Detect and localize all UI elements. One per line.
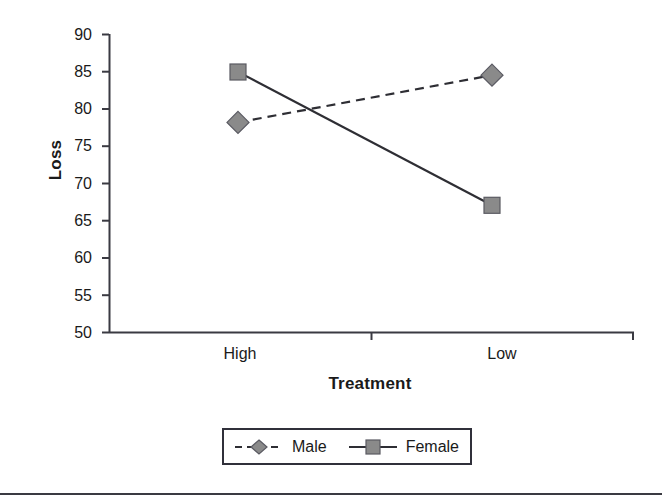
x-axis-title: Treatment xyxy=(240,374,500,394)
y-tick-label-85: 85 xyxy=(52,64,92,80)
legend-entry-female: Female xyxy=(349,438,459,456)
square-marker-icon xyxy=(366,440,380,454)
data-point-female-low xyxy=(484,197,500,213)
y-tick-label-50: 50 xyxy=(52,325,92,341)
line-chart-figure: 90 85 80 75 70 65 60 55 50 High Low Loss… xyxy=(0,0,662,499)
legend-label-male: Male xyxy=(292,439,327,455)
x-tick-label-low: Low xyxy=(442,346,562,362)
y-axis-title: Loss xyxy=(46,100,66,220)
y-tick-label-90: 90 xyxy=(52,27,92,43)
legend-label-female: Female xyxy=(406,439,459,455)
x-tick-label-high: High xyxy=(180,346,300,362)
legend-female-sample xyxy=(349,438,397,456)
y-tick-label-55: 55 xyxy=(52,288,92,304)
legend-male-sample xyxy=(235,438,283,456)
y-tick-label-60: 60 xyxy=(52,250,92,266)
chart-legend: Male Female xyxy=(222,428,472,465)
diamond-marker-icon xyxy=(251,440,267,454)
plot-area xyxy=(0,0,662,499)
data-point-female-high xyxy=(230,64,246,80)
data-point-male-low xyxy=(481,64,503,86)
bottom-divider xyxy=(0,493,662,495)
data-point-male-high xyxy=(227,111,249,133)
series-female-line xyxy=(238,72,492,205)
series-male-line xyxy=(238,75,492,122)
legend-entry-male: Male xyxy=(235,438,327,456)
